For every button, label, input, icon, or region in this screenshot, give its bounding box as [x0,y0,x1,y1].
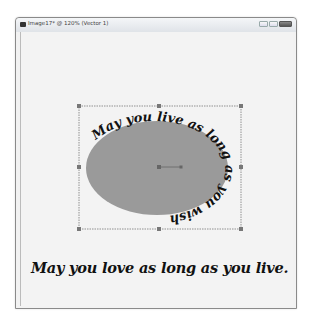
close-button[interactable] [279,21,292,27]
title-bar[interactable]: Image17* @ 120% (Vector 1) [16,18,296,32]
window-title: Image17* @ 120% (Vector 1) [28,20,109,26]
handle-bottom-middle[interactable] [157,227,161,231]
handle-bottom-right[interactable] [239,227,243,231]
bottom-text[interactable]: May you love as long as you live. [31,259,288,276]
rotation-handle[interactable] [180,166,183,169]
center-point-handle[interactable] [157,165,161,169]
handle-middle-left[interactable] [77,165,81,169]
handle-top-right[interactable] [239,104,243,108]
maximize-button[interactable] [269,21,278,27]
window-controls [259,21,292,27]
handle-top-left[interactable] [77,104,81,108]
handle-top-middle[interactable] [157,104,161,108]
handle-bottom-left[interactable] [77,227,81,231]
app-icon [20,22,26,27]
handle-middle-right[interactable] [239,165,243,169]
minimize-button[interactable] [259,21,268,27]
